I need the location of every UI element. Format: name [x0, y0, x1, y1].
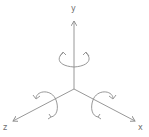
- z-axis-line: [13, 89, 74, 121]
- z-rotation-arrow-icon: [33, 92, 57, 119]
- y-axis-label: y: [71, 5, 76, 13]
- x-axis-label: x: [138, 124, 143, 132]
- x-rotation-arrow-icon: [92, 92, 116, 119]
- axes-diagram: [0, 0, 149, 137]
- z-axis-label: z: [3, 124, 7, 132]
- x-axis-line: [74, 89, 135, 121]
